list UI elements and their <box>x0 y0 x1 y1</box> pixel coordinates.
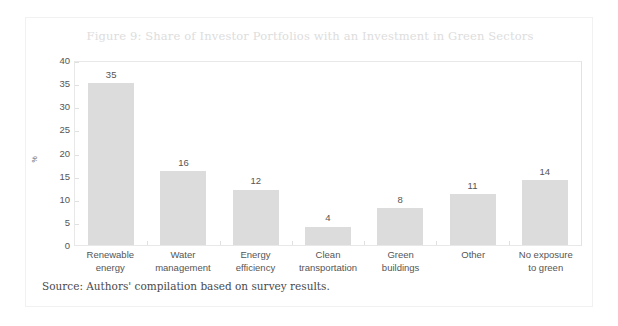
x-axis-category-label: Renewableenergy <box>74 249 147 274</box>
bar-value-label: 16 <box>147 158 219 168</box>
bar-slot: 35 <box>75 62 147 245</box>
plot-area: 351612481114 <box>74 61 582 246</box>
y-axis-tick-label: 25 <box>59 126 70 136</box>
y-axis-tick-mark <box>75 201 79 202</box>
x-axis-category-label-line: energy <box>74 262 147 275</box>
y-axis-title: % <box>31 156 38 162</box>
y-axis-tick-label: 5 <box>65 218 70 228</box>
x-axis-category-label-line: Clean <box>292 249 365 262</box>
bar[interactable] <box>450 194 496 245</box>
bar-value-label: 8 <box>364 195 436 205</box>
y-axis-tick-label: 40 <box>59 56 70 66</box>
x-axis-category-label-line: transportation <box>292 262 365 275</box>
y-axis-tick-label: 35 <box>59 79 70 89</box>
x-axis-tick-mark <box>147 241 148 245</box>
y-axis-tick-label: 30 <box>59 103 70 113</box>
x-axis-category-label-line: buildings <box>364 262 437 275</box>
bar[interactable] <box>160 171 206 245</box>
x-axis-category-label-line: to green <box>509 262 582 275</box>
x-axis-category-label-line: Energy <box>219 249 292 262</box>
x-axis-category-label: Cleantransportation <box>292 249 365 274</box>
x-axis-category-label-line: Green <box>364 249 437 262</box>
x-axis-tick-mark <box>364 241 365 245</box>
bar-slot: 11 <box>436 62 508 245</box>
bar[interactable] <box>88 83 134 245</box>
y-axis-tick-mark <box>75 108 79 109</box>
x-axis-category-label-line: efficiency <box>219 262 292 275</box>
bar-series: 351612481114 <box>75 62 581 245</box>
source-note: Source: Authors' compilation based on su… <box>42 280 330 292</box>
x-axis-category-label-line: Renewable <box>74 249 147 262</box>
y-axis-tick-mark <box>75 178 79 179</box>
y-axis-tick-label: 15 <box>59 172 70 182</box>
bar[interactable] <box>522 180 568 245</box>
bar-value-label: 14 <box>509 167 581 177</box>
y-axis-tick-labels: 0510152025303540 <box>40 61 70 246</box>
bar[interactable] <box>233 190 279 246</box>
x-axis-category-label: Other <box>437 249 510 274</box>
x-axis-category-label: No exposureto green <box>509 249 582 274</box>
x-axis-tick-mark <box>220 241 221 245</box>
figure-card: Figure 9: Share of Investor Portfolios w… <box>25 17 593 307</box>
bar[interactable] <box>305 227 351 246</box>
x-axis-category-label-line: management <box>147 262 220 275</box>
x-axis-tick-mark <box>436 241 437 245</box>
bar-slot: 12 <box>220 62 292 245</box>
y-axis-tick-mark <box>75 224 79 225</box>
bar[interactable] <box>377 208 423 245</box>
bar-slot: 4 <box>292 62 364 245</box>
y-axis-tick-mark <box>75 85 79 86</box>
x-axis-category-label: Greenbuildings <box>364 249 437 274</box>
y-axis-tick-mark <box>75 131 79 132</box>
bar-value-label: 11 <box>436 181 508 191</box>
bar-slot: 16 <box>147 62 219 245</box>
y-axis-tick-mark <box>75 155 79 156</box>
x-axis-category-label-line: Water <box>147 249 220 262</box>
x-axis-tick-labels: RenewableenergyWatermanagementEnergyeffi… <box>74 249 582 274</box>
y-axis-tick-mark <box>75 62 79 63</box>
x-axis-category-label-line: Other <box>437 249 510 262</box>
bar-slot: 14 <box>509 62 581 245</box>
x-axis-tick-mark <box>292 241 293 245</box>
x-axis-category-label: Watermanagement <box>147 249 220 274</box>
figure-title: Figure 9: Share of Investor Portfolios w… <box>26 29 594 43</box>
bar-value-label: 35 <box>75 70 147 80</box>
y-axis-tick-label: 0 <box>65 241 70 251</box>
y-axis-tick-label: 10 <box>59 195 70 205</box>
y-axis-tick-label: 20 <box>59 149 70 159</box>
bar-slot: 8 <box>364 62 436 245</box>
bar-value-label: 12 <box>220 176 292 186</box>
bar-value-label: 4 <box>292 213 364 223</box>
x-axis-category-label: Energyefficiency <box>219 249 292 274</box>
x-axis-tick-mark <box>509 241 510 245</box>
chart-plot-wrapper: % 0510152025303540 351612481114 Renewabl… <box>26 61 594 261</box>
x-axis-category-label-line: No exposure <box>509 249 582 262</box>
